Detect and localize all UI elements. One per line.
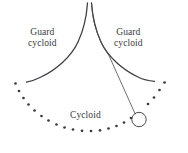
- cycloid-dot: [115, 125, 118, 128]
- label-guard-cycloid-right: Guard cycloid: [114, 27, 143, 49]
- label-guard-cycloid-right-line1: Guard: [114, 27, 143, 38]
- label-cycloid: Cycloid: [70, 110, 101, 121]
- label-guard-cycloid-right-line2: cycloid: [114, 38, 143, 49]
- cycloid-dot: [14, 82, 17, 85]
- cycloid-dot: [81, 129, 84, 132]
- cycloid-dot: [130, 117, 133, 120]
- cycloid-dot: [90, 130, 93, 133]
- label-guard-cycloid-left: Guard cycloid: [28, 27, 57, 49]
- cycloid-dot: [27, 103, 30, 106]
- cycloid-dot: [72, 128, 75, 131]
- pendulum-string: [92, 3, 136, 114]
- pendulum-bob: [132, 112, 146, 126]
- cycloid-dot: [47, 119, 50, 122]
- cycloid-dot: [147, 103, 150, 106]
- cycloid-dot: [158, 89, 161, 92]
- cycloid-dot: [55, 123, 58, 126]
- cycloid-dot: [40, 115, 43, 118]
- cycloid-dot: [33, 109, 36, 112]
- cycloidal-pendulum-figure: Guard cycloid Guard cycloid Cycloid: [0, 0, 188, 153]
- label-guard-cycloid-left-line2: cycloid: [28, 38, 57, 49]
- cycloid-dot: [107, 127, 110, 130]
- cycloid-dot: [153, 96, 156, 99]
- cycloid-dot: [123, 121, 126, 124]
- cycloid-dot: [63, 126, 66, 129]
- cycloid-dot: [99, 129, 102, 132]
- cycloid-dot: [18, 90, 21, 93]
- label-cycloid-line1: Cycloid: [70, 110, 101, 121]
- label-guard-cycloid-left-line1: Guard: [28, 27, 57, 38]
- cycloid-dot: [163, 81, 166, 84]
- cycloid-dotted-path: [14, 81, 166, 132]
- cycloid-dot: [22, 97, 25, 100]
- figure-canvas: [0, 0, 188, 153]
